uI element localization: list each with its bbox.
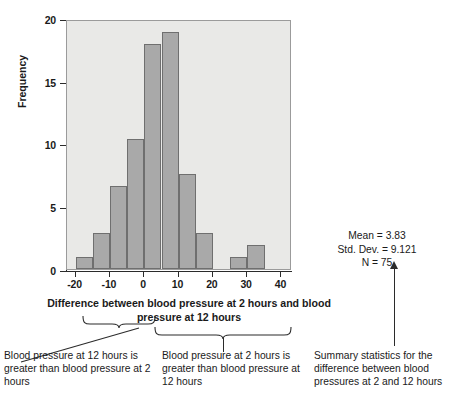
y-tick-label-15: 15 <box>45 77 56 89</box>
x-tick-label-40: 40 <box>265 278 295 290</box>
histogram-bar <box>93 233 110 269</box>
x-tick-label-30: 30 <box>231 278 261 290</box>
histogram-bar <box>110 186 127 269</box>
x-tick-label-0: 0 <box>128 278 158 290</box>
histogram-bar <box>144 44 161 269</box>
x-tick-40 <box>280 271 281 277</box>
y-tick-label-0: 0 <box>50 265 56 277</box>
x-tick-label--20: -20 <box>60 278 90 290</box>
x-tick--10 <box>109 271 110 277</box>
x-tick-10 <box>178 271 179 277</box>
x-tick-30 <box>246 271 247 277</box>
histogram-bar <box>230 257 247 269</box>
x-tick-label--10: -10 <box>94 278 124 290</box>
y-tick-label-5: 5 <box>50 202 56 214</box>
summary-statistics: Mean = 3.83 Std. Dev. = 9.121 N = 75 <box>322 229 432 270</box>
histogram-bar <box>247 245 264 269</box>
x-axis-line <box>66 271 292 272</box>
stat-mean: Mean = 3.83 <box>322 229 432 243</box>
histogram-bar <box>162 32 179 269</box>
right-annotation-text: Blood pressure at 2 hours is greater tha… <box>162 349 302 389</box>
bar-series <box>67 21 290 269</box>
x-axis-title: Difference between blood pressure at 2 h… <box>24 296 354 324</box>
histogram-bar <box>127 139 144 269</box>
x-tick-20 <box>212 271 213 277</box>
x-tick-0 <box>143 271 144 277</box>
histogram-bar <box>179 174 196 269</box>
x-tick-label-10: 10 <box>163 278 193 290</box>
histogram-bar <box>196 233 213 269</box>
y-tick-label-10: 10 <box>45 139 56 151</box>
histogram-figure: Frequency 20 15 10 5 0 -20 -10 0 10 <box>0 0 455 402</box>
left-annotation-text: Blood pressure at 12 hours is greater th… <box>4 349 154 389</box>
stats-arrow-head-icon <box>390 261 398 269</box>
stats-arrow-shaft <box>394 268 395 346</box>
stats-annotation-text: Summary statistics for the difference be… <box>314 349 454 389</box>
plot-area <box>66 20 291 270</box>
y-axis-title: Frequency <box>16 55 28 108</box>
stat-std-dev: Std. Dev. = 9.121 <box>322 243 432 257</box>
x-tick-label-20: 20 <box>197 278 227 290</box>
y-tick-label-20: 20 <box>45 14 56 26</box>
stat-n: N = 75 <box>322 256 432 270</box>
histogram-bar <box>76 257 93 269</box>
x-tick--20 <box>75 271 76 277</box>
